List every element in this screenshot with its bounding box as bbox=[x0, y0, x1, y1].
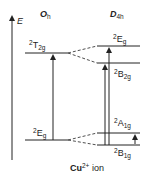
energy-axis-label: E bbox=[17, 17, 23, 26]
caption: Cu2+ ion bbox=[70, 163, 104, 173]
label-d4h-b1g: 2B1g bbox=[114, 148, 131, 160]
label-oh-t2g: 2T2g bbox=[29, 40, 45, 52]
label-d4h-a1g: 2A1g bbox=[114, 118, 131, 130]
correlation-lines bbox=[68, 46, 97, 145]
group-label-oh: Oh bbox=[40, 10, 51, 21]
label-d4h-b2g: 2B2g bbox=[114, 69, 131, 81]
label-d4h-eg: 2Eg bbox=[113, 34, 126, 46]
group-label-d4h: D4h bbox=[110, 10, 124, 21]
label-oh-eg: 2Eg bbox=[33, 128, 46, 140]
